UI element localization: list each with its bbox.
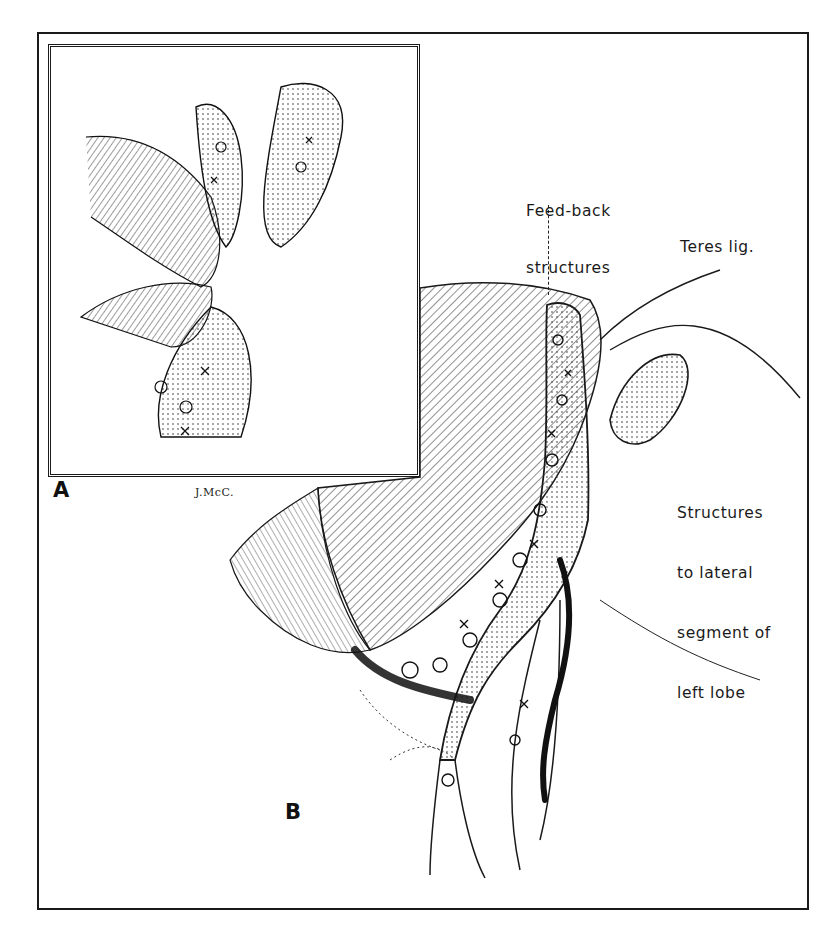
inset-panel-a	[48, 44, 420, 477]
label-lateral-segment-structures: Structures to lateral segment of left lo…	[677, 463, 771, 723]
label-feedback-line2: structures	[526, 259, 611, 278]
label-lateral-line2: to lateral	[677, 563, 771, 583]
label-lateral-line1: Structures	[677, 503, 771, 523]
label-feedback-line1: Feed-back	[526, 202, 611, 221]
ligament-loop	[610, 354, 688, 443]
shadow-band-2	[355, 650, 470, 700]
base-tissue	[360, 690, 455, 760]
inset-upper-lobe	[86, 136, 220, 287]
artist-signature: J.McC.	[195, 486, 234, 499]
label-lateral-line4: left lobe	[677, 683, 771, 703]
label-feedback-structures: Feed-back structures	[526, 164, 611, 297]
liver-hilum-illustration-a	[51, 47, 417, 474]
panel-label-a: A	[53, 478, 69, 502]
label-lateral-line3: segment of	[677, 623, 771, 643]
label-teres-lig: Teres lig.	[680, 238, 754, 257]
panel-label-b: B	[285, 800, 301, 824]
inset-vessel-upper-2	[264, 84, 343, 247]
